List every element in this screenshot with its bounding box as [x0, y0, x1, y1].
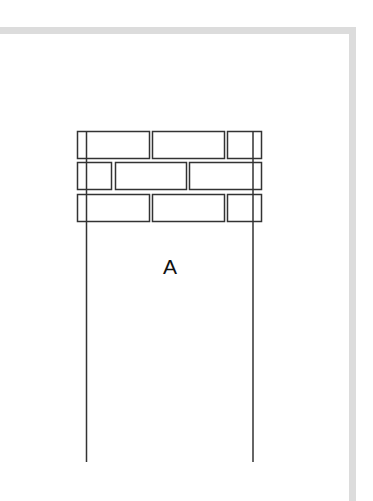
- brick: [78, 195, 150, 222]
- brick: [153, 195, 225, 222]
- brick: [78, 132, 150, 159]
- brick-courses: [78, 132, 262, 222]
- brick: [228, 195, 262, 222]
- brick: [78, 163, 112, 190]
- brick-wall-diagram: [0, 0, 373, 501]
- brick: [116, 163, 187, 190]
- brick: [153, 132, 225, 159]
- wall-label: A: [163, 256, 177, 277]
- brick: [228, 132, 262, 159]
- brick: [190, 163, 262, 190]
